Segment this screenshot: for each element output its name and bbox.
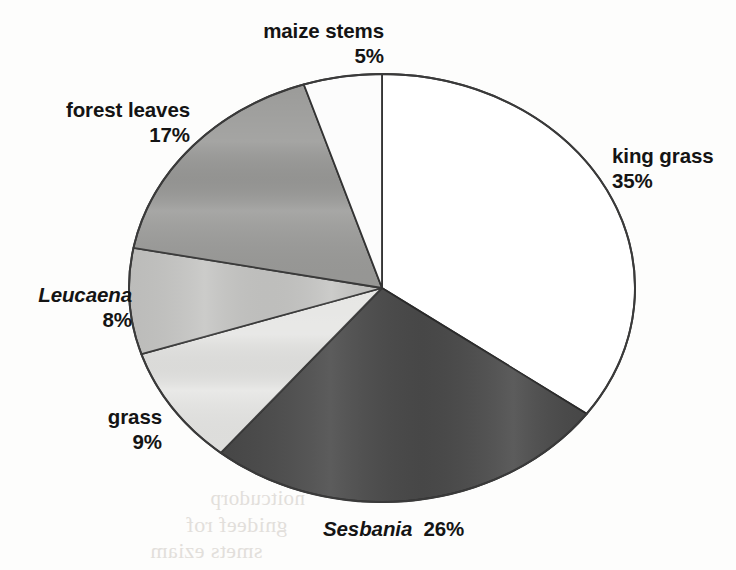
slice-label-forest-leaves-name: forest leaves [62,97,190,122]
slice-label-forest-leaves-percent: 17% [62,122,190,147]
pie-wedges [129,74,635,502]
slice-label-grass-percent: 9% [82,429,162,454]
slice-label-king-grass: king grass 35% [612,143,736,193]
pie-chart-figure: noitcudorp gnideef rof smets eziam [0,0,736,570]
slice-label-sesbania-name: Sesbania [323,517,412,540]
slice-label-grass: grass 9% [82,404,162,454]
slice-label-leucaena: Leucaena 8% [22,282,132,332]
slice-label-sesbania-percent: 26% [423,517,464,540]
slice-label-maize-stems-name: maize stems [248,18,384,43]
slice-label-leucaena-name: Leucaena [22,282,132,307]
slice-label-grass-name: grass [82,404,162,429]
slice-label-king-grass-name: king grass [612,143,736,168]
slice-label-maize-stems: maize stems 5% [248,18,384,68]
slice-label-leucaena-percent: 8% [22,307,132,332]
slice-label-forest-leaves: forest leaves 17% [62,97,190,147]
slice-label-maize-stems-percent: 5% [248,43,384,68]
slice-label-king-grass-percent: 35% [612,168,736,193]
slice-label-sesbania: Sesbania 26% [323,516,523,541]
